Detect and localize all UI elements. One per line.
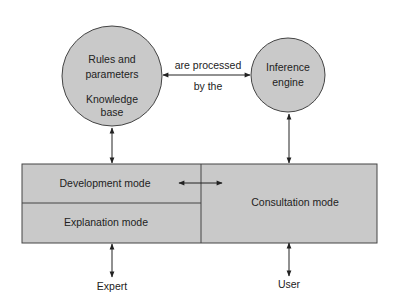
knowledge-base-label: Rules and parameters Knowledge base xyxy=(62,53,162,119)
development-mode-label: Development mode xyxy=(22,177,202,190)
kb-line-3: Knowledge xyxy=(62,93,162,106)
consultation-mode-label: Consultation mode xyxy=(201,196,377,209)
diagram-canvas xyxy=(0,0,397,306)
user-label: User xyxy=(259,278,319,291)
inference-engine-label: Inference engine xyxy=(251,61,325,89)
engine-line-1: Inference xyxy=(251,61,325,74)
explanation-mode-label: Explanation mode xyxy=(22,216,202,229)
kb-line-1: Rules and xyxy=(62,53,162,66)
kb-line-2: parameters xyxy=(62,68,162,81)
kb-line-4: base xyxy=(62,106,162,119)
edge-label-top: are processed xyxy=(166,59,250,72)
expert-label: Expert xyxy=(82,280,142,293)
edge-label-bottom: by the xyxy=(166,80,250,93)
engine-line-2: engine xyxy=(251,76,325,89)
